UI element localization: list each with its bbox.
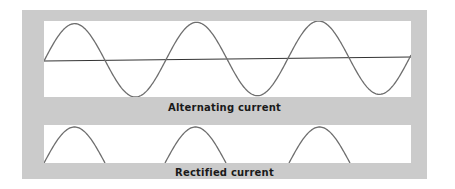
rectified-current-caption: Rectified current [22,167,427,178]
rectified-current-panel [44,125,411,163]
alternating-current-panel [44,21,411,97]
alternating-current-wave [44,21,411,97]
alternating-current-caption: Alternating current [22,102,427,113]
diagram-frame: Alternating current Rectified current [22,10,427,179]
rectified-current-wave [44,125,411,163]
